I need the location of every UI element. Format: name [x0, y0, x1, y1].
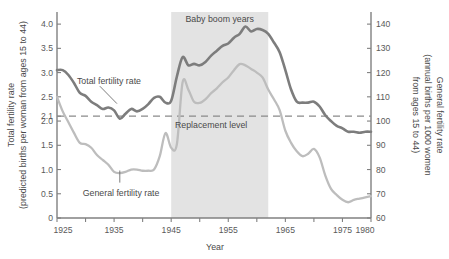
total-fertility-rate-label: Total fertility rate — [77, 76, 141, 86]
x-tick-label-1975: 1975 — [333, 225, 352, 235]
left-tick-label-3.5: 3.5 — [41, 43, 53, 53]
x-axis-title: Year — [206, 242, 224, 252]
x-tick-label-1945: 1945 — [162, 225, 181, 235]
left-tick-label-4.0: 4.0 — [41, 19, 53, 29]
baby-boom-band-label: Baby boom years — [185, 14, 254, 24]
left-tick-label-1.5: 1.5 — [41, 140, 53, 150]
left-tick-label-1.0: 1.0 — [41, 165, 53, 175]
left-axis-title-line2: (predicted births per woman from ages 15… — [18, 21, 28, 209]
replacement-level-label: Replacement level — [175, 120, 247, 130]
right-axis-tick-labels: 14013012011010090807060 — [376, 19, 391, 223]
general-fertility-rate-label: General fertility rate — [83, 188, 160, 198]
right-tick-label-60: 60 — [376, 213, 386, 223]
fertility-rate-chart-figure: 4.03.53.02.52.12.01.51.00.50 14013012011… — [0, 0, 449, 259]
x-tick-label-1925: 1925 — [53, 225, 72, 235]
right-tick-label-90: 90 — [376, 140, 386, 150]
left-tick-label-2.0: 2.0 — [41, 116, 53, 126]
right-tick-label-120: 120 — [376, 68, 391, 78]
baby-boom-band-group — [171, 12, 268, 218]
baby-boom-shaded-region — [171, 12, 268, 218]
right-tick-label-70: 70 — [376, 189, 386, 199]
left-tick-label-2.5: 2.5 — [41, 92, 53, 102]
x-tick-label-1955: 1955 — [219, 225, 238, 235]
left-axis-title-line1: Total fertility rate — [6, 83, 16, 147]
right-tick-label-140: 140 — [376, 19, 391, 29]
left-tick-label-3.0: 3.0 — [41, 68, 53, 78]
chart-canvas: 4.03.53.02.52.12.01.51.00.50 14013012011… — [0, 0, 449, 259]
right-tick-label-110: 110 — [376, 92, 390, 102]
total-fertility-rate-leader-line — [100, 86, 117, 103]
right-axis-title-line2: (annual births per 1000 women — [423, 54, 433, 175]
x-tick-label-1980: 1980 — [355, 225, 374, 235]
right-axis-title-line3: from ages 15 to 44) — [411, 77, 421, 153]
bottom-axis-tick-labels: 1925193519451955196519751980 — [53, 225, 374, 235]
left-axis-tick-labels: 4.03.53.02.52.12.01.51.00.50 — [41, 19, 53, 223]
right-tick-label-80: 80 — [376, 165, 386, 175]
left-tick-label-0.5: 0.5 — [41, 189, 53, 199]
right-tick-label-130: 130 — [376, 43, 391, 53]
right-axis-title-line1: General fertility rate — [435, 77, 445, 154]
left-tick-label-0: 0 — [48, 213, 53, 223]
x-tick-label-1965: 1965 — [276, 225, 295, 235]
right-tick-label-100: 100 — [376, 116, 391, 126]
x-tick-label-1935: 1935 — [105, 225, 124, 235]
